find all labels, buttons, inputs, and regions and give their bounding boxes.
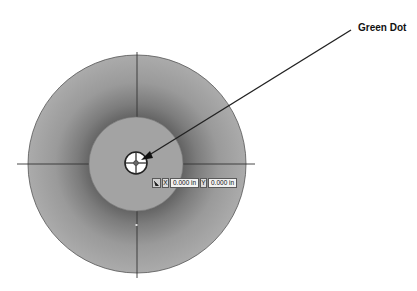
tick-mark: [136, 224, 138, 226]
target-marker-icon: [125, 152, 147, 174]
diagram-canvas: [0, 0, 417, 291]
snap-arrow-icon[interactable]: [152, 178, 161, 188]
y-axis-label: Y: [200, 178, 207, 188]
coordinate-input-widget: X 0.000 in Y 0.000 in: [152, 178, 237, 188]
x-axis-label: X: [162, 178, 169, 188]
callout-label-green-dot: Green Dot: [358, 22, 406, 33]
y-coordinate-field[interactable]: 0.000 in: [208, 178, 237, 188]
x-coordinate-field[interactable]: 0.000 in: [170, 178, 199, 188]
